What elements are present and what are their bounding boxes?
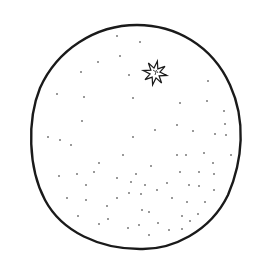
peel-dot: [166, 182, 168, 184]
peel-dot: [127, 227, 129, 229]
peel-dot: [150, 165, 152, 167]
stem-star-icon: [143, 61, 167, 85]
peel-dot: [85, 184, 87, 186]
peel-dot: [141, 209, 143, 211]
peel-dot: [185, 154, 187, 156]
peel-dot: [176, 154, 178, 156]
peel-dot: [225, 134, 227, 136]
peel-dot: [59, 139, 61, 141]
peel-dot: [212, 162, 214, 164]
orange-outline: [31, 25, 241, 249]
peel-dot: [80, 71, 82, 73]
peel-dot: [230, 154, 232, 156]
peel-dot: [213, 173, 215, 175]
peel-dot: [128, 74, 130, 76]
peel-dot: [140, 193, 142, 195]
peel-dot: [132, 136, 134, 138]
peel-dot: [128, 192, 130, 194]
peel-dot: [156, 189, 158, 191]
peel-dot: [144, 184, 146, 186]
peel-dot: [81, 120, 83, 122]
peel-dot: [98, 223, 100, 225]
peel-dot: [213, 189, 215, 191]
peel-dot: [223, 110, 225, 112]
peel-dot: [56, 93, 58, 95]
peel-dot: [135, 173, 137, 175]
peel-dot: [186, 201, 188, 203]
peel-dot: [85, 199, 87, 201]
peel-dot: [138, 224, 140, 226]
peel-dot: [116, 197, 118, 199]
peel-dot: [130, 181, 132, 183]
peel-dot: [192, 130, 194, 132]
peel-dot: [171, 197, 173, 199]
peel-dot: [76, 173, 78, 175]
peel-dot: [70, 144, 72, 146]
peel-dot: [188, 184, 190, 186]
peel-dot: [66, 197, 68, 199]
peel-dot: [93, 171, 95, 173]
peel-dot: [119, 55, 121, 57]
peel-dot: [198, 185, 200, 187]
peel-dot: [189, 220, 191, 222]
peel-dot: [214, 133, 216, 135]
peel-dot: [122, 154, 124, 156]
peel-dot: [83, 96, 85, 98]
peel-dots: [47, 35, 232, 236]
peel-dot: [179, 171, 181, 173]
peel-dot: [107, 218, 109, 220]
peel-dot: [139, 41, 141, 43]
peel-dot: [148, 234, 150, 236]
peel-dot: [116, 177, 118, 179]
peel-dot: [157, 222, 159, 224]
peel-dot: [181, 215, 183, 217]
peel-dot: [77, 215, 79, 217]
peel-dot: [207, 80, 209, 82]
peel-dot: [224, 123, 226, 125]
peel-dot: [197, 213, 199, 215]
peel-dot: [181, 228, 183, 230]
peel-dot: [58, 175, 60, 177]
peel-dot: [106, 205, 108, 207]
orange-drawing: [0, 0, 254, 269]
peel-dot: [132, 97, 134, 99]
peel-dot: [176, 124, 178, 126]
peel-dot: [203, 152, 205, 154]
peel-dot: [204, 201, 206, 203]
peel-dot: [116, 35, 118, 37]
peel-dot: [47, 136, 49, 138]
peel-dot: [179, 102, 181, 104]
peel-dot: [206, 100, 208, 102]
peel-dot: [148, 211, 150, 213]
peel-dot: [168, 229, 170, 231]
peel-dot: [154, 129, 156, 131]
peel-dot: [97, 61, 99, 63]
peel-dot: [98, 162, 100, 164]
peel-dot: [198, 171, 200, 173]
